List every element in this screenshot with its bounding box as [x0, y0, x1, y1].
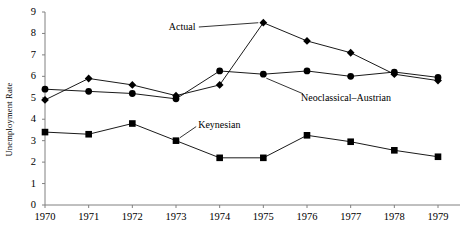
annotation-label: Neoclassical–Austrian [301, 92, 391, 104]
annotation-label: Keynesian [198, 119, 240, 131]
axis-lines [42, 12, 460, 208]
series-keynesian [42, 120, 442, 161]
unemployment-rate-chart: Unemployment Rate 0123456789 19701971197… [0, 0, 465, 239]
annotation-label: Actual [169, 21, 196, 33]
